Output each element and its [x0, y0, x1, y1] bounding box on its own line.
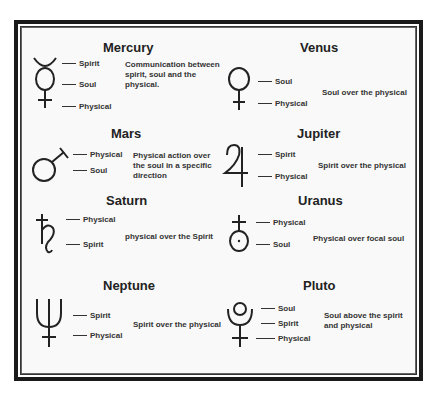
label-spirit: Spirit [66, 240, 103, 249]
saturn-symbol-icon [34, 212, 60, 254]
label-spirit: Spirit [258, 150, 295, 159]
planet-description: Spirit over the physical [133, 320, 233, 330]
planet-description: Communication between spirit, soul and t… [125, 60, 220, 90]
planet-title: Pluto [303, 278, 336, 293]
planet-description: physical over the Spirit [125, 232, 225, 242]
planet-description: Spirit over the physical [318, 161, 418, 171]
label-physical: Physical [62, 102, 111, 111]
label-physical: Physical [73, 150, 122, 159]
label-soul: Soul [258, 77, 292, 86]
planet-title: Jupiter [297, 126, 340, 141]
label-soul: Soul [261, 304, 295, 313]
label-physical: Physical [66, 215, 115, 224]
label-physical: Physical [256, 334, 310, 343]
planet-title: Uranus [298, 193, 343, 208]
pluto-symbol-icon [226, 301, 254, 349]
label-spirit: Spirit [261, 319, 298, 328]
venus-symbol-icon [225, 66, 253, 112]
mercury-symbol-icon [30, 56, 60, 110]
uranus-symbol-icon [226, 214, 252, 254]
label-physical: Physical [258, 172, 307, 181]
label-physical: Physical [258, 99, 307, 108]
label-soul: Soul [62, 80, 96, 89]
label-physical: Physical [73, 331, 122, 340]
planet-description: Physical over focal soul [313, 234, 413, 244]
planet-title: Neptune [103, 278, 155, 293]
planet-title: Venus [300, 40, 338, 55]
jupiter-symbol-icon [222, 143, 252, 189]
label-spirit: Spirit [73, 311, 110, 320]
mars-symbol-icon [30, 146, 72, 184]
label-physical: Physical [256, 218, 305, 227]
planet-description: Soul above the spirit and physical [324, 311, 412, 331]
label-soul: Soul [256, 240, 290, 249]
neptune-symbol-icon [34, 297, 64, 349]
planet-description: Physical action over the soul in a speci… [133, 151, 215, 181]
planet-title: Mars [111, 126, 141, 141]
label-soul: Soul [73, 166, 107, 175]
planet-title: Mercury [103, 40, 154, 55]
planet-description: Soul over the physical [322, 88, 412, 98]
label-spirit: Spirit [62, 59, 99, 68]
planet-title: Saturn [106, 193, 147, 208]
